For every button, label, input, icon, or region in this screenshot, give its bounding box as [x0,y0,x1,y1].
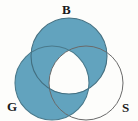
set-label-g: G [7,100,17,113]
set-label-b: B [62,3,71,16]
venn-diagram-figure: B G S [0,0,138,121]
venn-diagram-canvas [0,0,138,121]
set-label-s: S [122,101,129,114]
